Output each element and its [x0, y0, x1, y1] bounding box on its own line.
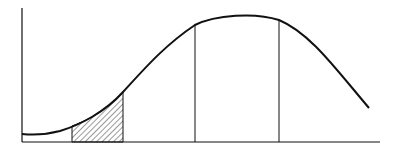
distribution-curve-diagram	[0, 0, 398, 152]
